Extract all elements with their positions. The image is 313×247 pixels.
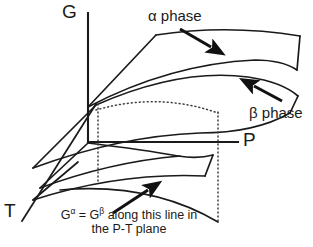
- caption-g-alpha-base: G: [61, 208, 71, 222]
- caption-equals-g: = G: [75, 208, 99, 222]
- gibbs-energy-surface-diagram: G P T α phase β phase Gα = Gβ along this…: [0, 0, 313, 247]
- caption-trailing-text: along this line in the P-T plane: [92, 208, 198, 236]
- bottom-sheet-right-edge: [205, 155, 213, 176]
- pointer-arrows-group: [113, 29, 282, 213]
- alpha-phase-label: α phase: [148, 8, 202, 24]
- equilibrium-caption: Gα = Gβ along this line in the P-T plane: [56, 208, 202, 237]
- mid-sheet-left-edge: [40, 143, 88, 188]
- g-axis-label: G: [62, 2, 77, 22]
- alpha-phase-arrow: [180, 29, 211, 47]
- alpha-left-edge: [88, 35, 156, 107]
- t-axis-label: T: [4, 201, 16, 221]
- beta-left-edge: [33, 105, 96, 168]
- intersection-curve-group: [96, 102, 218, 113]
- dotted-intersection-curve: [96, 102, 218, 113]
- p-axis-label: P: [243, 130, 256, 150]
- alpha-back-edge: [156, 30, 300, 36]
- mid-sheet-upper-curve: [88, 143, 213, 157]
- beta-phase-label: β phase: [249, 105, 303, 121]
- alpha-front-edge: [88, 60, 297, 107]
- beta-phase-arrow: [254, 86, 282, 101]
- beta-back-edge: [96, 75, 298, 105]
- t-axis-line: [22, 104, 96, 221]
- projection-droplines-group: [98, 104, 218, 223]
- alpha-right-edge: [297, 36, 300, 70]
